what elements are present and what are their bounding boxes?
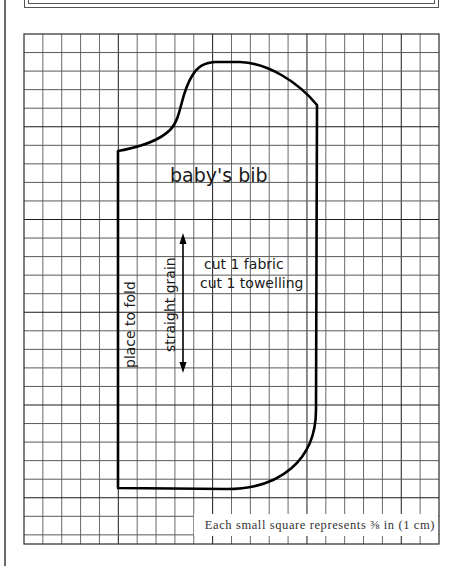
- pattern-title: baby's bib: [170, 164, 268, 186]
- grain-label: straight grain: [162, 257, 178, 352]
- fold-label: place to fold: [122, 281, 138, 368]
- scale-legend-text: Each small square represents ⅜ in (1 cm): [205, 518, 438, 533]
- cut-towelling-label: cut 1 towelling: [200, 275, 303, 291]
- grain-arrow: [180, 233, 187, 373]
- cut-fabric-label: cut 1 fabric: [204, 256, 284, 272]
- scale-legend: Each small square represents ⅜ in (1 cm): [194, 514, 438, 536]
- pattern-diagram: baby's bib cut 1 fabric cut 1 towelling …: [0, 0, 463, 582]
